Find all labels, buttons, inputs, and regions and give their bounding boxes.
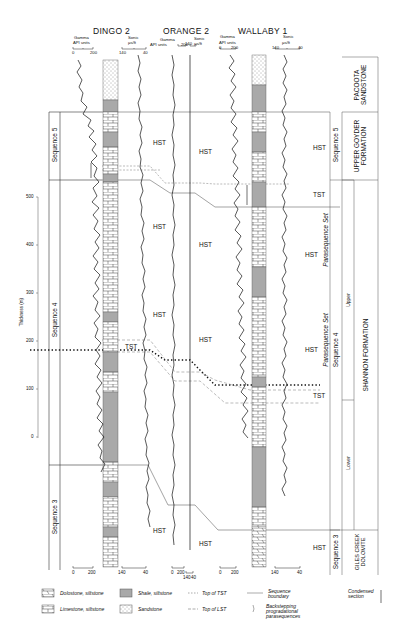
hst-label: HST	[199, 541, 212, 548]
dingo-sonic-units: µs/ft	[128, 41, 136, 45]
right-sequence-5: Sequence 5	[333, 128, 340, 163]
dingo-gamma-curve	[77, 60, 105, 472]
formation-giles-creek: GILES CREEK DOLOMITE	[355, 532, 366, 572]
hst-label: HST	[153, 528, 166, 535]
wallaby-sonic-min: 140	[272, 46, 279, 50]
dingo-sonic-curve	[138, 55, 150, 527]
member-lower: Lower	[346, 456, 351, 470]
hst-label: HST	[153, 312, 166, 319]
orange-gamma-curve	[172, 55, 175, 545]
dingo-gamma-min: 0	[72, 51, 74, 55]
legend-top-tst: Top of TST	[202, 591, 227, 596]
left-sequence-3: Sequence 3	[52, 500, 59, 535]
bottom-orange-gamma-min: 0	[171, 571, 174, 576]
hst-label: HST	[305, 252, 318, 259]
thickness-axis-label: Thickness (m)	[20, 298, 25, 326]
legend-condensed-section: Condensed section	[348, 589, 388, 599]
well-correlation-figure: DINGO 2 ORANGE 2 WALLABY 1 Gamma API uni…	[0, 0, 396, 632]
right-sequence-3: Sequence 3	[333, 535, 340, 570]
well-title-dingo: DINGO 2	[93, 27, 130, 36]
dingo-sonic-min: 140	[119, 51, 126, 55]
thickness-tick-400: 400	[26, 243, 34, 248]
hst-label: HST	[153, 224, 166, 231]
well-title-orange: ORANGE 2	[163, 27, 209, 36]
formation-pacoota: PACOOTA SANDSTONE	[354, 65, 367, 105]
parasequence-set-upper: Parasequence Set	[323, 213, 330, 266]
thickness-tick-100: 100	[26, 387, 34, 392]
hst-label: HST	[199, 242, 212, 249]
hst-label: HST	[153, 140, 166, 147]
wallaby-gamma-max: 200	[231, 46, 238, 50]
bottom-wallaby-gamma-min: 0	[219, 571, 222, 576]
left-sequence-4: Sequence 4	[52, 303, 59, 338]
hst-label: HST	[313, 545, 326, 552]
tst-label: TST	[313, 393, 325, 400]
hst-label: HST	[199, 149, 212, 156]
orange-sonic-min: 140	[185, 42, 192, 46]
legend-shale: Shale, siltstone	[138, 591, 172, 596]
well-title-wallaby: WALLABY 1	[238, 27, 287, 36]
bottom-orange-sonic-max: 40	[191, 576, 196, 581]
sequence-boundaries	[102, 112, 340, 530]
thickness-tick-300: 300	[26, 291, 34, 296]
formation-upper-goyder: UPPER GOYDER FORMATION	[354, 116, 367, 176]
tst-label: TST	[125, 344, 137, 351]
hst-label: HST	[313, 145, 326, 152]
wallaby-gamma-label: Gamma	[220, 35, 235, 39]
wallaby-sonic-max: 40	[298, 46, 303, 50]
dingo-lithology	[103, 60, 118, 567]
wallaby-gamma-curve	[229, 55, 248, 438]
bottom-wallaby-sonic-min: 140	[271, 571, 279, 576]
hst-label: HST	[199, 337, 212, 344]
legend-sandstone: Sandstone	[138, 607, 162, 612]
thickness-tick-200: 200	[26, 339, 34, 344]
dingo-gamma-max: 200	[90, 51, 97, 55]
wallaby-sonic-label: Sonic	[283, 35, 293, 39]
member-upper: Upper	[346, 293, 351, 307]
dingo-sonic-max: 40	[143, 51, 148, 55]
wallaby-sonic-units: µs/ft	[282, 41, 290, 45]
tst-label: TST	[313, 192, 325, 199]
legend-top-lst: Top of LST	[202, 607, 226, 612]
bottom-wallaby-gamma-max: 200	[231, 571, 239, 576]
bottom-dingo-gamma-min: 0	[72, 571, 75, 576]
legend-backstepping: Backstepping progradational parasequence…	[266, 604, 311, 619]
thickness-axis	[36, 197, 38, 438]
orange-sonic-units: µs/ft	[194, 42, 202, 46]
orange-gamma-units: API units	[150, 43, 167, 47]
hst-label: HST	[305, 347, 318, 354]
left-sequence-5: Sequence 5	[52, 128, 59, 163]
right-sequence-4: Sequence 4	[333, 333, 340, 368]
bottom-dingo-sonic-min: 140	[118, 571, 126, 576]
thickness-tick-0: 0	[31, 435, 34, 440]
formation-shannon: SHANNON FORMATION	[363, 319, 370, 392]
parasequence-set-boundary	[30, 350, 320, 385]
wallaby-sonic-curve	[282, 55, 287, 496]
parasequence-set-lower: Parasequence Set	[323, 313, 330, 366]
bottom-dingo-gamma-max: 200	[88, 571, 96, 576]
bottom-wallaby-sonic-max: 40	[297, 571, 302, 576]
thickness-tick-500: 500	[26, 195, 34, 200]
wallaby-lithology	[252, 55, 266, 567]
wallaby-gamma-min: 0	[219, 46, 221, 50]
dingo-gamma-units: API units	[73, 41, 90, 45]
bottom-orange-sonic-min: 140	[183, 576, 191, 581]
legend-limestone: Limestone, siltstone	[60, 607, 104, 612]
legend-dolostone: Dolostone, siltstone	[60, 591, 104, 596]
bottom-dingo-sonic-max: 40	[143, 571, 148, 576]
legend-sequence-boundary: Sequence boundary	[268, 589, 308, 599]
